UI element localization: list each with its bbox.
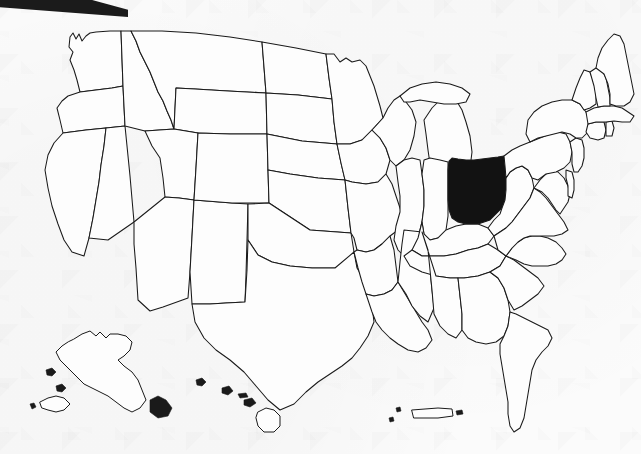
inset-alaska-island-1 — [46, 368, 56, 376]
inset-alaska-aleutians[interactable] — [40, 396, 70, 412]
state-nj[interactable] — [570, 138, 584, 172]
inset-alaska-kodiak — [150, 396, 172, 418]
us-state-locator-map: Map of the United States with Ohio highl… — [0, 0, 641, 454]
state-nm[interactable] — [190, 200, 248, 304]
state-co[interactable] — [194, 133, 269, 203]
state-oh[interactable] — [448, 156, 506, 224]
inset-puerto-rico-islet-vieques — [456, 410, 463, 415]
inset-puerto-rico-islet-west — [396, 407, 401, 412]
state-fl[interactable] — [500, 312, 552, 432]
inset-hawaii-big-island[interactable] — [256, 408, 280, 432]
inset-hawaii-molokai — [238, 393, 248, 398]
inset-hawaii-kauai — [196, 378, 206, 386]
state-in[interactable] — [422, 158, 448, 240]
state-wy[interactable] — [174, 88, 267, 134]
state-ct[interactable] — [586, 122, 606, 140]
inset-hawaii-oahu — [222, 386, 233, 395]
state-or[interactable] — [57, 86, 125, 133]
state-ut[interactable] — [145, 129, 198, 200]
inset-alaska-island-3 — [30, 403, 36, 409]
state-ri[interactable] — [606, 121, 614, 136]
inset-alaska-island-2 — [56, 384, 66, 392]
inset-alaska-group — [30, 331, 172, 418]
inset-puerto-rico-islet-south — [389, 417, 394, 422]
state-az[interactable] — [134, 197, 194, 311]
inset-puerto-rico-group — [389, 407, 463, 422]
inset-puerto-rico[interactable] — [412, 408, 453, 418]
state-mi-upper-peninsula[interactable] — [400, 82, 470, 104]
state-nd[interactable] — [262, 42, 332, 99]
state-wa[interactable] — [69, 31, 123, 92]
map-canvas — [0, 0, 641, 454]
inset-alaska[interactable] — [56, 331, 146, 412]
inset-hawaii-maui — [244, 398, 256, 407]
state-ma[interactable] — [586, 106, 634, 124]
contiguous-states-group — [45, 31, 634, 432]
